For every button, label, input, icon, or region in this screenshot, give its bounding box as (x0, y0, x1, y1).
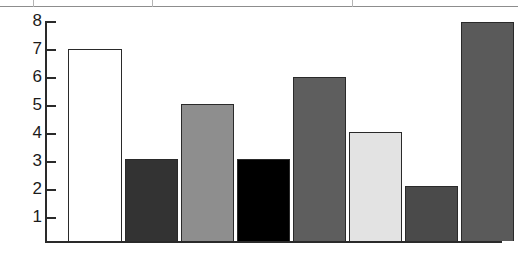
bar-1 (68, 49, 122, 241)
bar-4 (237, 159, 290, 241)
bar-8 (461, 22, 514, 241)
y-tick-label-5: 5 (12, 96, 42, 113)
y-tick-label-1: 1 (12, 208, 42, 225)
bar-series (47, 0, 502, 241)
y-tick-label-3: 3 (12, 152, 42, 169)
bar-6 (349, 132, 402, 242)
bar-7 (405, 186, 458, 241)
y-tick-label-4: 4 (12, 124, 42, 141)
y-tick-label-7: 7 (12, 40, 42, 57)
y-tick-label-6: 6 (12, 68, 42, 85)
bar-2 (125, 159, 178, 241)
bar-3 (181, 104, 234, 241)
bar-chart-figure: 8 7 6 5 4 3 2 1 (0, 0, 518, 265)
bar-5 (293, 77, 346, 241)
y-tick-label-2: 2 (12, 180, 42, 197)
x-axis-baseline (45, 241, 502, 243)
y-tick-label-8: 8 (12, 12, 42, 29)
plot-area: 8 7 6 5 4 3 2 1 (0, 0, 518, 265)
